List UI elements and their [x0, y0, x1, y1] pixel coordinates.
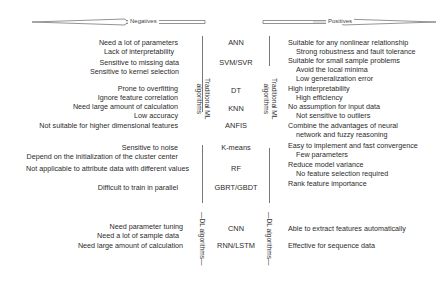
- anfis-positive-2: network and fuzzy reasoning: [296, 130, 388, 139]
- negatives-header-label: Negatives: [128, 18, 159, 24]
- ann-positive-2: Strong robustness and fault tolerance: [296, 47, 415, 56]
- ann-algorithm: ANN: [201, 38, 271, 47]
- cnn-negative-2: Need a lot of sample data: [97, 231, 179, 240]
- cnn-negative-1: Need parameter tuning: [109, 222, 183, 231]
- rnn-algorithm: RNN/LSTM: [201, 241, 271, 250]
- cnn-positive-1: Able to extract features automatically: [288, 224, 406, 233]
- dt-negative-2: Ignore feature correlation: [98, 93, 178, 102]
- kmeans-algorithm: K-means: [201, 143, 271, 152]
- rf-positive-1: Reduce model variance: [288, 160, 364, 169]
- gbrt-negative-1: Difficult to train in parallel: [98, 183, 178, 192]
- gbrt-algorithm: GBRT/GBDT: [201, 183, 271, 192]
- knn-positive-1: No assumption for input data: [288, 102, 380, 111]
- rnn-positive-1: Effective for sequence data: [288, 241, 375, 250]
- kmeans-positive-2: Few parameters: [296, 150, 348, 159]
- dt-positive-2: High efficiency: [296, 93, 343, 102]
- anfis-negative-1: Not suitable for higher dimensional feat…: [39, 121, 178, 130]
- kmeans-positive-1: Easy to implement and fast convergence: [288, 141, 418, 150]
- positives-header-label: Positives: [326, 18, 354, 24]
- cnn-algorithm: CNN: [201, 224, 271, 233]
- svm-positive-2: Avoid the local minima: [296, 65, 368, 74]
- dt-negative-1: Prone to overfitting: [118, 84, 178, 93]
- svm-positive-1: Suitable for small sample problems: [288, 56, 400, 65]
- dt-algorithm: DT: [201, 86, 271, 95]
- gbrt-positive-1: Rank feature importance: [288, 179, 367, 188]
- kmeans-negative-2: Depend on the initialization of the clus…: [27, 152, 178, 161]
- rnn-negative-1: Need large amount of calculation: [78, 241, 183, 250]
- ann-negative-1: Need a lot of parameters: [99, 38, 178, 47]
- knn-algorithm: KNN: [201, 104, 271, 113]
- anfis-algorithm: ANFIS: [201, 121, 271, 130]
- svm-positive-3: Low generalization error: [296, 74, 373, 83]
- dl-label-right: —DL algorithms—: [266, 212, 274, 266]
- rf-negative-1: Not applicable to attribute data with di…: [26, 164, 189, 173]
- kmeans-negative-1: Sensitive to noise: [122, 143, 178, 152]
- ann-negative-2: Lack of interpretability: [104, 47, 174, 56]
- negatives-arrow-icon: [30, 16, 210, 28]
- knn-positive-2: Not sensitive to outliers: [296, 111, 370, 120]
- right-divider-lower: [269, 148, 270, 203]
- svm-negative-1: Sensitive to missing data: [99, 58, 179, 67]
- rf-positive-2: No feature selection required: [296, 169, 388, 178]
- dt-positive-1: High interpretability: [288, 84, 350, 93]
- ann-positive-1: Suitable for any nonlinear relationship: [288, 38, 408, 47]
- knn-negative-2: Low accuracy: [134, 111, 178, 120]
- anfis-positive-1: Combine the advantages of neural: [288, 121, 398, 130]
- knn-negative-1: Need large amount of calculation: [73, 102, 178, 111]
- svm-algorithm: SVM/SVR: [201, 58, 271, 67]
- dl-label-left: —DL algorithms—: [199, 212, 207, 266]
- traditional-ml-label-left: Traditional ML algorithms: [196, 78, 211, 120]
- traditional-ml-label-right: Traditional ML algorithms: [263, 78, 278, 120]
- rf-algorithm: RF: [201, 164, 271, 173]
- left-divider-lower: [202, 145, 203, 203]
- svm-negative-2: Sensitive to kernel selection: [90, 67, 179, 76]
